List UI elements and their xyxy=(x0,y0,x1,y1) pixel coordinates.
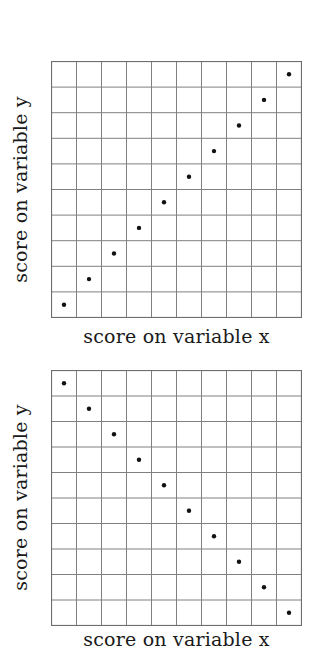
data-point xyxy=(187,509,191,513)
y-axis-label: score on variable y xyxy=(0,369,40,626)
data-point xyxy=(137,458,141,462)
plot-area xyxy=(51,370,302,626)
data-point xyxy=(287,611,291,615)
data-point xyxy=(87,407,91,411)
data-point xyxy=(162,483,166,487)
data-point xyxy=(237,560,241,564)
data-point xyxy=(112,432,116,436)
data-point xyxy=(262,585,266,589)
grid-chart xyxy=(51,370,302,626)
scatter-plot-negative: score on variable y score on variable x xyxy=(0,0,315,652)
data-point xyxy=(62,381,66,385)
x-axis-label: score on variable x xyxy=(51,628,302,650)
data-point xyxy=(212,534,216,538)
